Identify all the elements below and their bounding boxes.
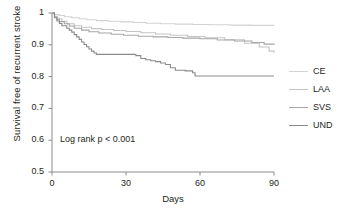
- y-tick-label: 0.9: [22, 39, 44, 49]
- y-tick-label: 0.6: [22, 134, 44, 144]
- legend-item-laa: LAA: [289, 80, 333, 98]
- legend-swatch-ce: [289, 71, 308, 72]
- legend-label-laa: LAA: [313, 85, 330, 94]
- legend-swatch-und: [289, 125, 308, 126]
- x-tick-label: 30: [115, 178, 137, 188]
- x-tick-label: 90: [263, 178, 285, 188]
- legend: CE LAA SVS UND: [289, 62, 333, 134]
- x-tick-label: 0: [41, 178, 63, 188]
- legend-swatch-laa: [289, 89, 308, 90]
- legend-item-svs: SVS: [289, 98, 333, 116]
- y-tick-label: 0.5: [22, 166, 44, 176]
- y-tick-label: 0.8: [22, 71, 44, 81]
- logrank-annotation: Log rank p < 0.001: [60, 134, 135, 144]
- legend-label-und: UND: [313, 121, 333, 130]
- legend-label-svs: SVS: [313, 103, 331, 112]
- survival-chart-figure: { "chart_data": { "type": "line", "title…: [0, 0, 345, 217]
- curve-ce: [52, 13, 274, 26]
- legend-swatch-svs: [289, 107, 308, 108]
- y-tick-label: 0.7: [22, 102, 44, 112]
- x-tick-label: 60: [189, 178, 211, 188]
- legend-item-und: UND: [289, 116, 333, 134]
- legend-item-ce: CE: [289, 62, 333, 80]
- y-tick-label: 1: [22, 7, 44, 17]
- x-axis-label: Days: [133, 193, 213, 204]
- legend-label-ce: CE: [313, 67, 326, 76]
- curve-und: [52, 13, 274, 76]
